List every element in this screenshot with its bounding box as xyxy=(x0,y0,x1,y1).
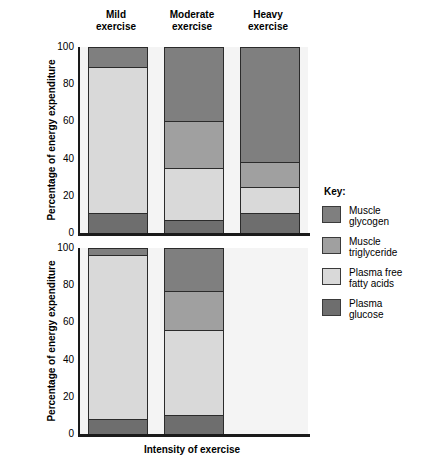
y-axis-tick-labels-top: 100806040200 xyxy=(48,42,74,238)
legend-item-plasma-free-fatty-acids[interactable]: Plasma freefatty acids xyxy=(322,267,439,289)
stacked-bar[interactable] xyxy=(164,47,224,233)
y-tick-bottom-80: 80 xyxy=(48,280,74,290)
y-tick-top-20: 20 xyxy=(48,191,74,201)
column-headers: Mild exercise Moderate exercise Heavy ex… xyxy=(78,9,306,39)
column-header-heavy-line1: Heavy xyxy=(230,9,306,21)
bar-segment-plasma-glucose[interactable] xyxy=(240,213,300,233)
y-tick-top-100: 100 xyxy=(48,42,74,52)
bar-slot-top-moderate xyxy=(156,47,232,233)
legend-item-plasma-glucose[interactable]: Plasmaglucose xyxy=(322,298,439,320)
legend-label: Plasmaglucose xyxy=(349,298,383,320)
column-header-heavy: Heavy exercise xyxy=(230,9,306,39)
y-tick-top-60: 60 xyxy=(48,116,74,126)
bar-segment-muscle-glycogen[interactable] xyxy=(240,47,300,162)
legend-swatch-icon xyxy=(322,268,341,285)
column-header-moderate-line1: Moderate xyxy=(154,9,230,21)
legend-label: Plasma freefatty acids xyxy=(349,267,402,289)
legend: Key: MuscleglycogenMuscletriglyceridePla… xyxy=(322,186,439,329)
bar-segment-plasma-free-fatty-acids[interactable] xyxy=(164,330,224,416)
column-header-heavy-line2: exercise xyxy=(230,21,306,33)
legend-label-line1: Plasma xyxy=(349,298,383,309)
figure-stacked-bar-energy-expenditure: Mild exercise Moderate exercise Heavy ex… xyxy=(0,0,439,467)
y-tick-bottom-40: 40 xyxy=(48,355,74,365)
legend-label-line1: Muscle xyxy=(349,236,397,247)
bar-group-top xyxy=(80,47,308,233)
bar-segment-plasma-glucose[interactable] xyxy=(88,419,148,434)
y-tick-top-80: 80 xyxy=(48,79,74,89)
y-tick-bottom-100: 100 xyxy=(48,243,74,253)
column-header-moderate: Moderate exercise xyxy=(154,9,230,39)
bar-segment-plasma-free-fatty-acids[interactable] xyxy=(88,255,148,419)
bar-segment-muscle-glycogen[interactable] xyxy=(164,47,224,121)
y-tick-top-40: 40 xyxy=(48,154,74,164)
legend-title: Key: xyxy=(324,186,439,197)
bar-segment-muscle-glycogen[interactable] xyxy=(88,248,148,255)
legend-swatch-icon xyxy=(322,237,341,254)
legend-items: MuscleglycogenMuscletriglyceridePlasma f… xyxy=(322,205,439,320)
column-header-mild-line2: exercise xyxy=(78,21,154,33)
bar-segment-plasma-free-fatty-acids[interactable] xyxy=(240,187,300,213)
y-axis-tick-labels-bottom: 100806040200 xyxy=(48,243,74,439)
x-axis-line-bottom xyxy=(78,434,310,437)
legend-swatch-icon xyxy=(322,299,341,316)
bar-segment-plasma-glucose[interactable] xyxy=(164,220,224,233)
legend-label-line2: glucose xyxy=(349,309,383,320)
stacked-bar[interactable] xyxy=(164,248,224,434)
bar-group-bottom xyxy=(80,248,308,434)
panel-bottom-90-120-min: Percentage of energy expenditure 90–120 … xyxy=(0,234,320,467)
legend-item-muscle-glycogen[interactable]: Muscleglycogen xyxy=(322,205,439,227)
bar-segment-plasma-free-fatty-acids[interactable] xyxy=(164,168,224,220)
bar-segment-muscle-triglyceride[interactable] xyxy=(240,162,300,186)
stacked-bar[interactable] xyxy=(88,47,148,233)
legend-swatch-icon xyxy=(322,206,341,223)
y-tick-bottom-60: 60 xyxy=(48,317,74,327)
y-tick-bottom-20: 20 xyxy=(48,392,74,402)
column-header-moderate-line2: exercise xyxy=(154,21,230,33)
legend-label-line2: fatty acids xyxy=(349,278,402,289)
bar-slot-bottom-heavy xyxy=(232,248,308,434)
x-axis-title: Intensity of exercise xyxy=(78,444,306,455)
bar-segment-muscle-glycogen[interactable] xyxy=(164,248,224,291)
y-tick-bottom-0: 0 xyxy=(48,429,74,439)
bar-segment-plasma-free-fatty-acids[interactable] xyxy=(88,67,148,212)
plot-area-bottom xyxy=(78,248,308,434)
legend-label-line1: Muscle xyxy=(349,205,389,216)
bar-segment-muscle-triglyceride[interactable] xyxy=(164,121,224,168)
bar-segment-muscle-glycogen[interactable] xyxy=(88,47,148,67)
legend-label-line2: glycogen xyxy=(349,216,389,227)
legend-label: Muscletriglyceride xyxy=(349,236,397,258)
stacked-bar[interactable] xyxy=(88,248,148,434)
bar-slot-top-mild xyxy=(80,47,156,233)
bar-segment-muscle-triglyceride[interactable] xyxy=(164,291,224,330)
legend-label-line2: triglyceride xyxy=(349,247,397,258)
bar-slot-top-heavy xyxy=(232,47,308,233)
bar-segment-plasma-glucose[interactable] xyxy=(164,415,224,434)
bar-slot-bottom-mild xyxy=(80,248,156,434)
legend-label-line1: Plasma free xyxy=(349,267,402,278)
legend-label: Muscleglycogen xyxy=(349,205,389,227)
bar-segment-plasma-glucose[interactable] xyxy=(88,213,148,233)
stacked-bar[interactable] xyxy=(240,47,300,233)
column-header-mild-line1: Mild xyxy=(78,9,154,21)
plot-area-top xyxy=(78,47,308,233)
column-header-mild: Mild exercise xyxy=(78,9,154,39)
panel-top-0-30-min: Mild exercise Moderate exercise Heavy ex… xyxy=(0,0,320,240)
bar-slot-bottom-moderate xyxy=(156,248,232,434)
legend-item-muscle-triglyceride[interactable]: Muscletriglyceride xyxy=(322,236,439,258)
